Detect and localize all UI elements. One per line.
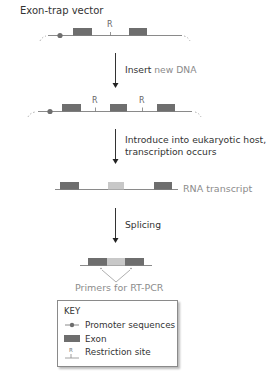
step-insert-rest: new DNA (151, 64, 196, 75)
exon-icon (125, 258, 144, 266)
key-item-label: Promoter sequences (85, 320, 175, 330)
exon-icon (73, 28, 92, 36)
key-item-promoter: Promoter sequences (64, 319, 175, 331)
plasmid-curve-left (40, 36, 46, 41)
restriction-label: R (92, 96, 98, 105)
arrow-down-icon (113, 129, 119, 164)
step-introduce-label: Introduce into eukaryotic host, transcri… (125, 134, 266, 158)
exon-icon (154, 182, 172, 190)
primer-site-icon (130, 268, 132, 270)
key-item-exon: Exon (64, 333, 106, 345)
exon-icon (60, 182, 79, 190)
arrow-down-icon (113, 53, 119, 88)
exon-trap-vector (40, 28, 190, 41)
arrow-down-icon (113, 208, 119, 243)
promoter-icon (57, 33, 62, 38)
key-legend: KEY Promoter sequences Exon R Restrictio… (57, 300, 178, 367)
promoter-icon (47, 109, 52, 114)
step-insert-bold: Insert (125, 64, 151, 75)
primers-label: Primers for RT-PCR (75, 282, 163, 293)
restriction-label: R (139, 96, 145, 105)
key-item-label: Exon (85, 334, 106, 344)
step-introduce-line1: Introduce into eukaryotic host, (125, 134, 266, 146)
step-introduce-line2: transcription occurs (125, 146, 266, 158)
exon-icon (157, 104, 175, 112)
plasmid-curve-left (28, 112, 35, 117)
exon-icon (62, 104, 81, 112)
primer-pointer-lines (102, 270, 130, 282)
exon-icon (129, 28, 147, 36)
key-title: KEY (64, 306, 80, 316)
key-item-restriction-site: R Restriction site (64, 346, 151, 358)
restriction-label: R (107, 20, 113, 29)
spliced-transcript (80, 258, 152, 282)
key-item-label: Restriction site (85, 347, 151, 357)
step-splicing-label: Splicing (125, 219, 161, 231)
inserted-exon-icon (107, 258, 125, 266)
exon-icon (88, 258, 107, 266)
step-insert-label: Insert new DNA (125, 64, 196, 76)
primer-site-icon (100, 268, 102, 270)
rna-transcript (55, 182, 178, 190)
exon-icon (64, 333, 80, 345)
exon-icon (110, 104, 127, 112)
plasmid-curve-right (195, 112, 201, 117)
inserted-exon-icon (108, 182, 124, 190)
promoter-icon (64, 319, 80, 331)
rna-transcript-label: RNA transcript (183, 183, 252, 194)
restriction-site-icon: R (64, 346, 80, 358)
plasmid-curve-right (184, 36, 190, 41)
recombinant-vector (28, 104, 201, 117)
svg-text:R: R (69, 347, 73, 353)
